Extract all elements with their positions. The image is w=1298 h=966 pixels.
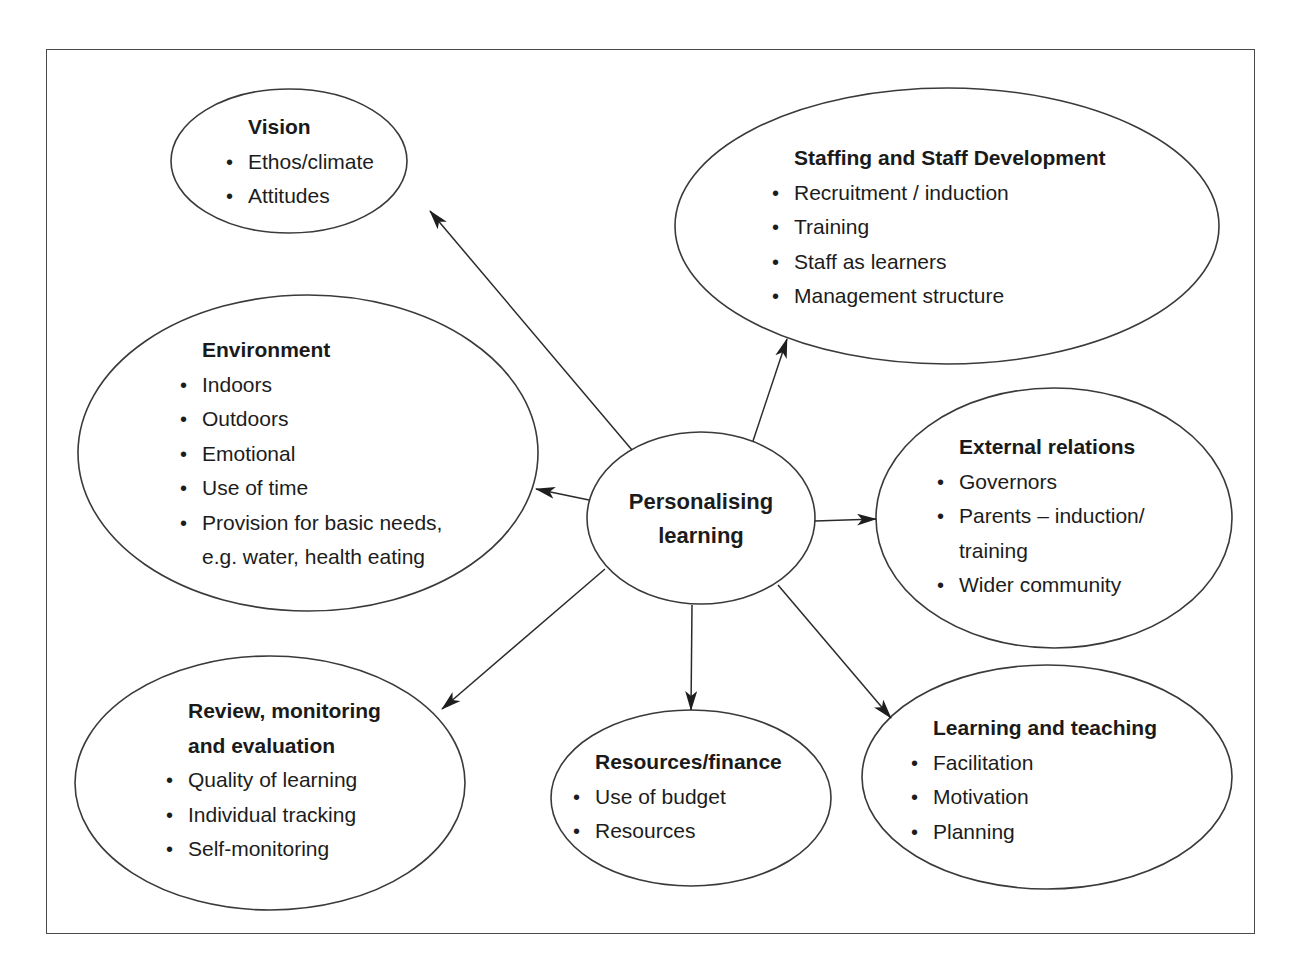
- list-item: Provision for basic needs,: [180, 506, 442, 541]
- environment-title: Environment: [180, 333, 442, 368]
- review-title-line2: and evaluation: [166, 729, 381, 764]
- vision-title: Vision: [226, 110, 374, 145]
- list-item: Staff as learners: [772, 245, 1106, 280]
- external-node: External relations Governors Parents – i…: [937, 430, 1145, 603]
- list-item: Quality of learning: [166, 763, 381, 798]
- arrow-to-review: [442, 569, 605, 709]
- list-item: Recruitment / induction: [772, 176, 1106, 211]
- external-list: Governors Parents – induction/ training …: [937, 465, 1145, 603]
- list-item: Outdoors: [180, 402, 442, 437]
- resources-list: Use of budget Resources: [573, 780, 782, 849]
- list-item: Parents – induction/: [937, 499, 1145, 534]
- list-item: Facilitation: [911, 746, 1157, 781]
- list-item: Training: [772, 210, 1106, 245]
- list-item-continuation: training: [937, 534, 1145, 569]
- learning-title: Learning and teaching: [911, 711, 1157, 746]
- arrow-to-external: [815, 519, 876, 521]
- list-item: Emotional: [180, 437, 442, 472]
- environment-node: Environment Indoors Outdoors Emotional U…: [180, 333, 442, 575]
- environment-list: Indoors Outdoors Emotional Use of time P…: [180, 368, 442, 575]
- list-item: Wider community: [937, 568, 1145, 603]
- list-item-continuation: e.g. water, health eating: [180, 540, 442, 575]
- arrow-to-staffing: [753, 339, 787, 441]
- list-item: Resources: [573, 814, 782, 849]
- center-node: Personalising learning: [601, 485, 801, 553]
- list-item: Indoors: [180, 368, 442, 403]
- list-item: Ethos/climate: [226, 145, 374, 180]
- staffing-node: Staffing and Staff Development Recruitme…: [772, 141, 1106, 314]
- list-item: Individual tracking: [166, 798, 381, 833]
- vision-node: Vision Ethos/climate Attitudes: [226, 110, 374, 214]
- resources-node: Resources/finance Use of budget Resource…: [573, 745, 782, 849]
- list-item: Planning: [911, 815, 1157, 850]
- review-node: Review, monitoring and evaluation Qualit…: [166, 694, 381, 867]
- review-list: Quality of learning Individual tracking …: [166, 763, 381, 867]
- arrow-to-environment: [536, 489, 589, 500]
- list-item: Management structure: [772, 279, 1106, 314]
- staffing-list: Recruitment / induction Training Staff a…: [772, 176, 1106, 314]
- external-title: External relations: [937, 430, 1145, 465]
- learning-node: Learning and teaching Facilitation Motiv…: [911, 711, 1157, 849]
- arrow-to-resources: [691, 605, 692, 710]
- center-title-line1: Personalising: [601, 485, 801, 519]
- list-item: Attitudes: [226, 179, 374, 214]
- learning-list: Facilitation Motivation Planning: [911, 746, 1157, 850]
- review-title-line1: Review, monitoring: [166, 694, 381, 729]
- staffing-title: Staffing and Staff Development: [772, 141, 1106, 176]
- list-item: Governors: [937, 465, 1145, 500]
- arrow-to-learning: [778, 585, 891, 718]
- resources-title: Resources/finance: [573, 745, 782, 780]
- list-item: Use of budget: [573, 780, 782, 815]
- center-title-line2: learning: [601, 519, 801, 553]
- list-item: Self-monitoring: [166, 832, 381, 867]
- list-item: Motivation: [911, 780, 1157, 815]
- vision-list: Ethos/climate Attitudes: [226, 145, 374, 214]
- list-item: Use of time: [180, 471, 442, 506]
